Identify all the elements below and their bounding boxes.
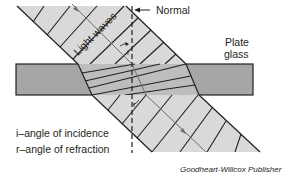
normal-label: Normal <box>156 4 190 16</box>
angle-i-label: i <box>127 48 129 57</box>
publisher-credit: Goodheart-Willcox Publisher <box>180 165 282 174</box>
refraction-diagram: Normal Plate glass Light waves i r i–ang… <box>0 0 296 176</box>
normal-arrow-icon <box>134 8 140 13</box>
legend-incidence: i–angle of incidence <box>16 127 109 139</box>
plate-glass-label-2: glass <box>224 48 249 60</box>
plate-glass-label-1: Plate <box>225 36 249 48</box>
legend-refraction: r–angle of refraction <box>16 143 110 155</box>
angle-r-label: r <box>133 100 136 109</box>
